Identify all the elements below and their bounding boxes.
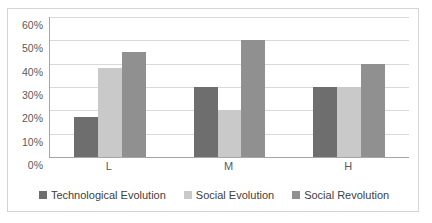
y-axis-tick-label: 10% bbox=[22, 136, 43, 147]
legend-swatch-icon bbox=[292, 191, 300, 199]
bar bbox=[98, 68, 122, 157]
legend-swatch-icon bbox=[184, 191, 192, 199]
y-axis-tick-label: 30% bbox=[22, 90, 43, 101]
legend-label: Social Revolution bbox=[304, 190, 389, 201]
bar bbox=[241, 40, 265, 157]
bar bbox=[194, 87, 218, 157]
y-axis: 0%10%20%30%40%50%60% bbox=[8, 17, 46, 157]
x-axis-tick-label: L bbox=[106, 161, 112, 172]
bar bbox=[337, 87, 361, 157]
legend-item[interactable]: Social Evolution bbox=[184, 190, 274, 201]
y-axis-tick-label: 50% bbox=[22, 43, 43, 54]
bar bbox=[361, 64, 385, 157]
legend-label: Technological Evolution bbox=[51, 190, 166, 201]
bar bbox=[122, 52, 146, 157]
legend-label: Social Evolution bbox=[196, 190, 274, 201]
x-axis-tick-label: H bbox=[344, 161, 352, 172]
x-axis-category-labels: LMH bbox=[49, 161, 408, 179]
bars-layer bbox=[50, 17, 409, 157]
bar bbox=[313, 87, 337, 157]
x-axis-tick-label: M bbox=[224, 161, 233, 172]
plot-area bbox=[49, 17, 409, 158]
plot-wrapper: 0%10%20%30%40%50%60% LMH Technological E… bbox=[8, 9, 420, 213]
chart-container: 0%10%20%30%40%50%60% LMH Technological E… bbox=[7, 8, 419, 212]
legend-item[interactable]: Social Revolution bbox=[292, 190, 389, 201]
y-axis-tick-label: 20% bbox=[22, 113, 43, 124]
legend-item[interactable]: Technological Evolution bbox=[39, 190, 166, 201]
chart-legend: Technological EvolutionSocial EvolutionS… bbox=[8, 185, 420, 205]
bar bbox=[74, 117, 98, 157]
bar bbox=[218, 110, 242, 157]
legend-swatch-icon bbox=[39, 191, 47, 199]
y-axis-tick-label: 40% bbox=[22, 66, 43, 77]
y-axis-tick-label: 60% bbox=[22, 20, 43, 31]
y-axis-tick-label: 0% bbox=[28, 160, 43, 171]
